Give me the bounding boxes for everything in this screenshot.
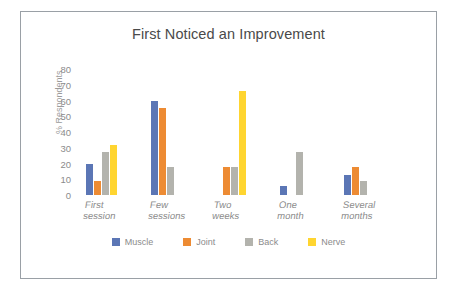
bar-joint-2[interactable]	[223, 167, 230, 195]
bar-muscle-4[interactable]	[344, 175, 351, 195]
legend-swatch-icon	[112, 238, 120, 246]
y-tick-label: 0	[66, 190, 71, 201]
bar-back-4[interactable]	[360, 181, 367, 195]
bar-nerve-2[interactable]	[239, 91, 246, 195]
x-tick-label: One month	[276, 199, 310, 221]
x-tick-label: First session	[83, 199, 119, 221]
x-tick-label: Two weeks	[212, 199, 246, 221]
bar-muscle-1[interactable]	[151, 101, 158, 196]
y-tick-label: 80	[60, 64, 71, 75]
y-tick-label: 20	[60, 158, 71, 169]
chart-title: First Noticed an Improvement	[21, 26, 436, 42]
y-tick-label: 50	[60, 111, 71, 122]
bar-group: Two weeks	[215, 69, 246, 195]
bar-nerve-0[interactable]	[110, 145, 117, 195]
bar-group: Few sessions	[151, 69, 182, 195]
chart-legend: MuscleJointBackNerve	[21, 237, 436, 247]
y-tick-label: 60	[60, 95, 71, 106]
bar-group: First session	[86, 69, 117, 195]
legend-label: Back	[258, 237, 278, 247]
y-tick-label: 10	[60, 174, 71, 185]
bar-back-2[interactable]	[231, 167, 238, 195]
bar-back-1[interactable]	[167, 167, 174, 195]
bar-back-0[interactable]	[102, 152, 109, 195]
legend-item-muscle[interactable]: Muscle	[112, 237, 154, 247]
bar-muscle-3[interactable]	[280, 186, 287, 195]
bar-joint-0[interactable]	[94, 181, 101, 195]
x-tick-label: Several months	[340, 199, 376, 221]
legend-item-back[interactable]: Back	[245, 237, 278, 247]
bar-muscle-0[interactable]	[86, 164, 93, 196]
legend-swatch-icon	[183, 238, 191, 246]
y-tick-label: 70	[60, 79, 71, 90]
legend-item-joint[interactable]: Joint	[183, 237, 215, 247]
y-tick-label: 40	[60, 127, 71, 138]
legend-swatch-icon	[245, 238, 253, 246]
chart-frame: First Noticed an Improvement % Responden…	[20, 11, 437, 279]
legend-swatch-icon	[308, 238, 316, 246]
bar-group: Several months	[344, 69, 375, 195]
bar-group: One month	[280, 69, 311, 195]
bar-joint-4[interactable]	[352, 167, 359, 195]
legend-label: Muscle	[125, 237, 154, 247]
bar-joint-1[interactable]	[159, 108, 166, 195]
x-tick-label: Few sessions	[147, 199, 187, 221]
y-tick-label: 30	[60, 142, 71, 153]
plot-area: 01020304050607080 First sessionFew sessi…	[76, 69, 398, 195]
legend-label: Nerve	[321, 237, 345, 247]
legend-label: Joint	[196, 237, 215, 247]
bar-back-3[interactable]	[296, 152, 303, 195]
legend-item-nerve[interactable]: Nerve	[308, 237, 345, 247]
